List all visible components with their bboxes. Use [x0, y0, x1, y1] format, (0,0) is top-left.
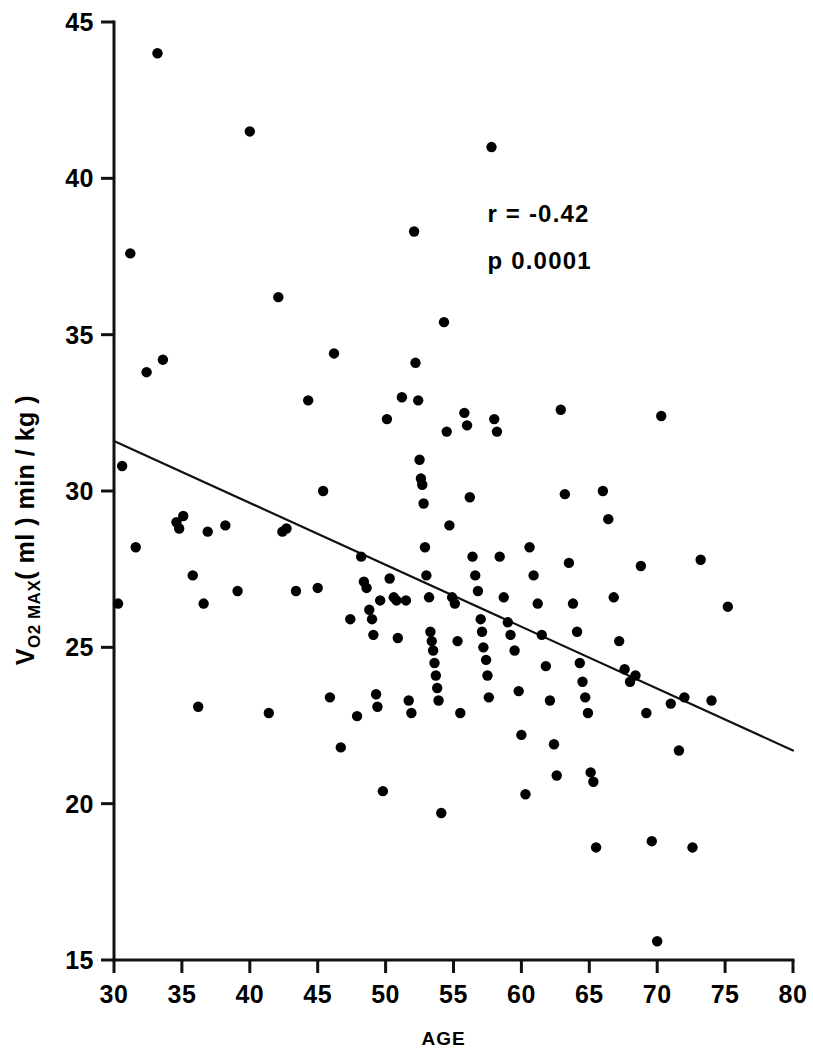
data-point — [203, 526, 213, 536]
data-point — [318, 486, 328, 496]
data-point — [424, 592, 434, 602]
data-point — [429, 658, 439, 668]
data-point — [264, 708, 274, 718]
data-point — [361, 583, 371, 593]
data-point — [679, 692, 689, 702]
x-axis-title: AGE — [421, 1028, 465, 1048]
data-point — [603, 514, 613, 524]
data-point — [193, 702, 203, 712]
data-point — [325, 692, 335, 702]
data-point — [580, 692, 590, 702]
data-point — [489, 414, 499, 424]
data-point — [477, 627, 487, 637]
x-tick-label: 35 — [167, 980, 196, 1008]
y-axis-title-text: VO2 MAX( ml ) min / kg ) — [11, 395, 44, 665]
data-point — [439, 317, 449, 327]
data-point — [378, 786, 388, 796]
data-point — [397, 392, 407, 402]
data-point — [174, 523, 184, 533]
data-point — [656, 411, 666, 421]
data-point — [273, 292, 283, 302]
y-axis-title: VO2 MAX( ml ) min / kg ) — [11, 395, 44, 665]
x-tick-label: 65 — [575, 980, 604, 1008]
x-tick-label: 70 — [643, 980, 672, 1008]
data-point — [513, 686, 523, 696]
data-point — [614, 636, 624, 646]
data-point — [516, 730, 526, 740]
data-point — [585, 767, 595, 777]
data-point — [401, 595, 411, 605]
data-point — [470, 570, 480, 580]
data-point — [465, 492, 475, 502]
data-point — [420, 542, 430, 552]
data-point — [572, 627, 582, 637]
data-point — [375, 595, 385, 605]
x-tick-label: 75 — [711, 980, 740, 1008]
data-point — [427, 636, 437, 646]
data-point — [452, 636, 462, 646]
data-point — [484, 692, 494, 702]
data-point — [524, 542, 534, 552]
data-point — [499, 592, 509, 602]
data-point — [636, 561, 646, 571]
data-point — [556, 405, 566, 415]
data-point — [291, 586, 301, 596]
data-point — [141, 367, 151, 377]
data-point — [560, 489, 570, 499]
data-point — [706, 695, 716, 705]
data-point — [598, 486, 608, 496]
data-point — [384, 573, 394, 583]
data-point — [568, 598, 578, 608]
data-point — [414, 455, 424, 465]
data-point — [403, 695, 413, 705]
data-point — [428, 645, 438, 655]
data-point — [695, 555, 705, 565]
data-point — [459, 408, 469, 418]
data-point — [545, 695, 555, 705]
data-point — [674, 745, 684, 755]
data-point — [345, 614, 355, 624]
data-point — [431, 670, 441, 680]
data-point — [577, 677, 587, 687]
data-point — [533, 598, 543, 608]
data-point — [494, 551, 504, 561]
data-point — [158, 354, 168, 364]
data-point — [372, 702, 382, 712]
y-tick-label: 40 — [65, 164, 94, 192]
annotation-text: p 0.0001 — [487, 247, 591, 274]
y-tick-label: 25 — [65, 633, 94, 661]
data-point — [509, 645, 519, 655]
data-point — [391, 595, 401, 605]
data-point — [652, 936, 662, 946]
data-point — [125, 248, 135, 258]
x-tick-label: 55 — [439, 980, 468, 1008]
data-point — [329, 348, 339, 358]
data-point — [117, 461, 127, 471]
data-point — [503, 617, 513, 627]
data-point — [352, 711, 362, 721]
data-point — [245, 126, 255, 136]
data-point — [505, 630, 515, 640]
y-tick-label: 15 — [65, 946, 94, 974]
x-tick-label: 60 — [507, 980, 536, 1008]
data-point — [442, 426, 452, 436]
data-point — [188, 570, 198, 580]
data-point — [281, 523, 291, 533]
y-tick-label: 45 — [65, 8, 94, 36]
data-point — [432, 683, 442, 693]
data-point — [575, 658, 585, 668]
data-point — [481, 655, 491, 665]
data-point — [433, 695, 443, 705]
data-point — [591, 842, 601, 852]
data-point — [368, 630, 378, 640]
data-point — [588, 777, 598, 787]
x-tick-label: 40 — [235, 980, 264, 1008]
scatter-plot-figure: 303540455055606570758015202530354045AGEV… — [0, 0, 813, 1048]
data-point — [367, 614, 377, 624]
data-point — [313, 583, 323, 593]
data-point — [475, 614, 485, 624]
data-point — [450, 598, 460, 608]
data-point — [356, 551, 366, 561]
data-point — [444, 520, 454, 530]
data-point — [425, 627, 435, 637]
